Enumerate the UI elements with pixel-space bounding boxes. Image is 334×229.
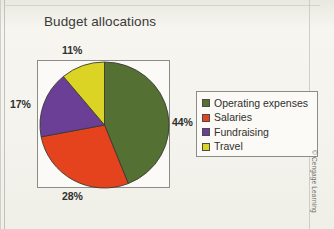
legend-item: Travel	[202, 140, 317, 155]
legend-item-label: Fundraising	[214, 127, 269, 138]
pie-chart	[38, 61, 171, 189]
page-left-rule	[4, 0, 5, 229]
pie-chart-plot-area	[37, 60, 170, 188]
slice-label-operating-expenses: 44%	[172, 116, 193, 128]
legend-item: Fundraising	[202, 125, 317, 140]
page-top-rule	[4, 5, 320, 6]
legend-color-swatch	[202, 128, 210, 136]
legend-item: Operating expenses	[202, 96, 317, 111]
copyright-credit: © Cengage Learning	[311, 150, 318, 229]
slice-label-fundraising: 17%	[10, 98, 31, 110]
legend-item-label: Salaries	[214, 112, 252, 123]
chart-legend: Operating expensesSalariesFundraisingTra…	[196, 91, 318, 157]
legend-item: Salaries	[202, 111, 317, 126]
legend-item-label: Travel	[214, 141, 243, 152]
legend-color-swatch	[202, 114, 210, 122]
slice-label-travel: 11%	[62, 44, 82, 56]
legend-color-swatch	[202, 143, 210, 151]
legend-color-swatch	[202, 99, 210, 107]
pie-chart-svg	[38, 61, 171, 189]
slice-label-salaries: 28%	[62, 190, 83, 202]
chart-title: Budget allocations	[44, 14, 156, 29]
legend-item-label: Operating expenses	[214, 98, 308, 109]
pie-slice-group	[40, 62, 169, 188]
figure-page: Budget allocations 11% 44% 28% 17% Opera…	[0, 0, 334, 229]
